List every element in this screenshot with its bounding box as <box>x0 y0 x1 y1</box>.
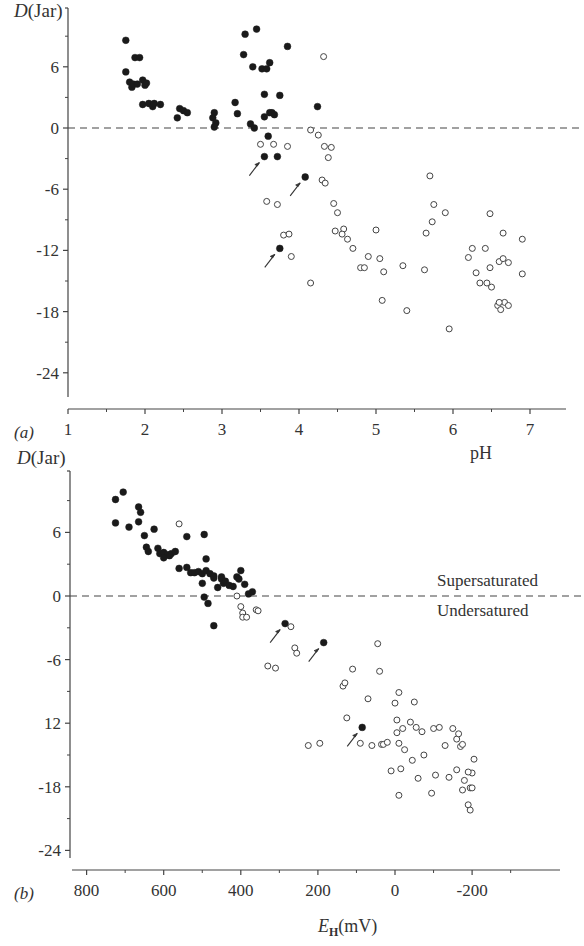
filled-data-point <box>151 526 158 533</box>
open-data-point <box>377 668 383 674</box>
open-data-point <box>505 303 511 309</box>
filled-data-point <box>126 524 133 531</box>
open-data-point <box>471 756 477 762</box>
filled-data-point <box>122 37 129 44</box>
panel-b-x-axis-label: EH(mV) <box>317 916 377 939</box>
y-tick-label: 12 <box>44 714 61 733</box>
open-data-point <box>473 270 479 276</box>
open-data-point <box>487 265 493 271</box>
filled-data-point <box>320 639 327 646</box>
filled-data-point <box>236 576 243 583</box>
filled-data-point <box>203 556 210 563</box>
filled-data-point <box>276 92 283 99</box>
open-data-point <box>500 256 506 262</box>
open-data-point <box>460 787 466 793</box>
open-data-point <box>331 201 337 207</box>
open-data-point <box>332 228 338 234</box>
filled-data-point <box>145 548 152 555</box>
y-tick-label: -6 <box>47 651 61 670</box>
open-data-point <box>482 245 488 251</box>
open-data-point <box>388 768 394 774</box>
filled-data-point <box>151 100 158 107</box>
filled-data-point <box>214 584 221 591</box>
open-data-point <box>496 299 502 305</box>
open-data-point <box>325 155 331 161</box>
open-data-point <box>423 230 429 236</box>
open-data-point <box>487 211 493 217</box>
arrow-icon <box>347 733 357 746</box>
open-data-point <box>271 141 277 147</box>
open-data-point <box>409 757 415 763</box>
open-data-point <box>328 144 334 150</box>
open-data-point <box>339 231 345 237</box>
open-data-point <box>419 729 425 735</box>
open-data-point <box>429 219 435 225</box>
open-data-point <box>427 173 433 179</box>
open-data-point <box>461 777 467 783</box>
filled-data-point <box>184 109 191 116</box>
filled-data-point <box>253 26 260 33</box>
undersaturated-annotation: Undersatured <box>437 601 529 620</box>
panel-a-y-axis-label: D(Jar) <box>13 0 63 22</box>
open-data-point <box>431 726 437 732</box>
y-tick-label: 0 <box>51 119 60 138</box>
open-data-point <box>469 245 475 251</box>
y-tick-label: -6 <box>45 180 59 199</box>
open-data-point <box>394 717 400 723</box>
open-data-point <box>415 775 421 781</box>
open-data-point <box>375 641 381 647</box>
open-data-point <box>273 665 279 671</box>
open-data-point <box>265 663 271 669</box>
open-data-point <box>396 740 402 746</box>
filled-data-point <box>112 496 119 503</box>
open-data-point <box>342 680 348 686</box>
open-data-point <box>413 724 419 730</box>
x-tick-label: 7 <box>526 420 535 439</box>
filled-data-point <box>201 594 208 601</box>
arrow-icon <box>270 630 280 643</box>
x-tick-label: 4 <box>295 420 304 439</box>
filled-data-point <box>160 554 167 561</box>
open-data-point <box>421 752 427 758</box>
x-tick-label: 200 <box>305 881 331 900</box>
open-data-point <box>176 521 182 527</box>
open-data-point <box>465 769 471 775</box>
x-tick-label: 2 <box>141 420 150 439</box>
filled-data-point <box>274 153 281 160</box>
open-data-point <box>460 741 466 747</box>
filled-data-point <box>249 588 256 595</box>
open-data-point <box>308 127 314 133</box>
filled-data-point <box>174 114 181 121</box>
open-data-point <box>442 210 448 216</box>
x-tick-label: 6 <box>449 420 458 439</box>
open-data-point <box>285 143 291 149</box>
filled-data-point <box>137 509 144 516</box>
open-data-point <box>411 699 417 705</box>
y-tick-label: 6 <box>51 58 60 77</box>
filled-data-point <box>265 133 272 140</box>
open-data-point <box>369 743 375 749</box>
filled-data-point <box>359 724 366 731</box>
y-tick-label: -18 <box>36 303 59 322</box>
y-tick-label: 6 <box>53 523 62 542</box>
open-data-point <box>422 267 428 273</box>
panel-a-x-axis-label: pH <box>470 443 492 463</box>
filled-data-point <box>261 91 268 98</box>
open-data-point <box>322 180 328 186</box>
open-data-point <box>321 54 327 60</box>
panel-b-scatter-plot: 60-612-18-248006004002000-200 D(Jar) (b)… <box>14 447 584 939</box>
panel-b-data-points <box>112 489 477 813</box>
panel-a-data-points <box>122 26 525 332</box>
open-data-point <box>477 280 483 286</box>
panel-b-letter: (b) <box>14 884 34 903</box>
arrow-icon <box>309 649 319 662</box>
arrow-icon <box>265 254 275 267</box>
open-data-point <box>436 724 442 730</box>
open-data-point <box>431 202 437 208</box>
y-tick-label: -24 <box>36 364 59 383</box>
open-data-point <box>288 254 294 260</box>
y-tick-label: 0 <box>53 587 62 606</box>
open-data-point <box>429 790 435 796</box>
open-data-point <box>381 269 387 275</box>
x-tick-label: 5 <box>372 420 381 439</box>
